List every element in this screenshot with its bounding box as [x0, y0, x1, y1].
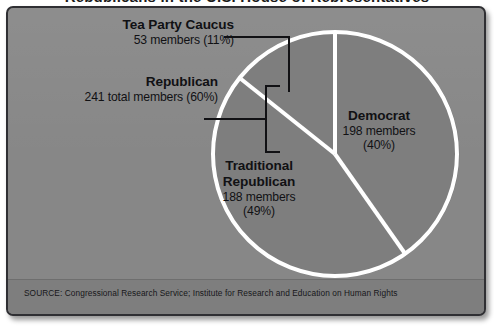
callout-democrat-members: 198 members — [320, 124, 438, 138]
callout-traditional-title-line2: Republican — [198, 174, 320, 190]
callout-tea-party-detail: 53 members (11%) — [22, 33, 234, 47]
callout-democrat-percent: (40%) — [320, 138, 438, 152]
callout-tea-party-title: Tea Party Caucus — [22, 17, 234, 33]
callout-republican-detail: 241 total members (60%) — [12, 90, 218, 104]
callout-republican-title: Republican — [12, 74, 218, 90]
figure-stage: Republicans in the U.S. House of Represe… — [0, 0, 494, 327]
callout-traditional-percent: (49%) — [198, 204, 320, 218]
chart-panel: Tea Party Caucus 53 members (11%) Republ… — [6, 6, 486, 316]
callout-traditional-republican: Traditional Republican 188 members (49%) — [198, 158, 320, 218]
callout-tea-party-caucus: Tea Party Caucus 53 members (11%) — [22, 17, 234, 47]
callout-democrat: Democrat 198 members (40%) — [320, 108, 438, 152]
callout-democrat-title: Democrat — [320, 108, 438, 124]
source-footer: SOURCE: Congressional Research Service; … — [8, 279, 484, 314]
callout-traditional-title-line1: Traditional — [198, 158, 320, 174]
cut-off-chart-title: Republicans in the U.S. House of Represe… — [0, 0, 494, 2]
source-text: SOURCE: Congressional Research Service; … — [24, 288, 398, 298]
callout-republican: Republican 241 total members (60%) — [12, 74, 218, 104]
callout-traditional-members: 188 members — [198, 190, 320, 204]
